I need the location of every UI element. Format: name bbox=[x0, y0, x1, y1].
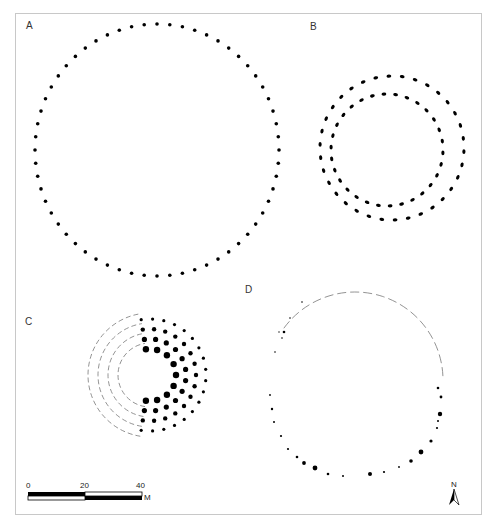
plan-b-double-ring bbox=[318, 74, 465, 221]
plan-a-post-ring bbox=[33, 22, 281, 278]
plan-d-irregular-ring bbox=[269, 292, 443, 477]
scale-tick-20: 20 bbox=[80, 481, 89, 490]
scale-tick-40: 40 bbox=[136, 481, 145, 490]
plan-c-concentric-rings bbox=[88, 314, 207, 436]
north-label: N bbox=[451, 480, 457, 489]
scale-bar: 0 20 40 M bbox=[26, 481, 151, 502]
site-plans: 0 20 40 M N bbox=[0, 0, 494, 532]
scale-tick-0: 0 bbox=[26, 481, 31, 490]
north-arrow-icon: N bbox=[449, 480, 459, 505]
scale-unit: M bbox=[144, 493, 151, 502]
